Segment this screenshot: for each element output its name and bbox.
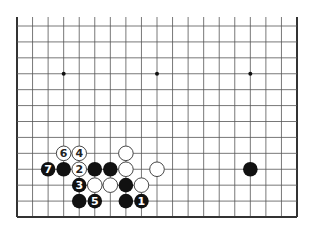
- black-stone: [119, 178, 134, 193]
- white-stone: [103, 178, 118, 193]
- black-stone: [243, 162, 258, 177]
- move-number-label: 2: [75, 163, 83, 176]
- white-stone: 2: [72, 162, 87, 177]
- stones: 6472351: [41, 146, 258, 208]
- black-stone: [72, 194, 87, 209]
- stone-disc: [87, 162, 102, 177]
- white-stone: [119, 146, 134, 161]
- move-number-label: 7: [44, 163, 52, 176]
- black-stone: 5: [87, 194, 102, 209]
- white-stone: [150, 162, 165, 177]
- stone-disc: [103, 178, 118, 193]
- white-stone: [134, 178, 149, 193]
- stone-disc: [56, 162, 71, 177]
- stone-disc: [87, 178, 102, 193]
- stone-disc: [72, 194, 87, 209]
- white-stone: [87, 178, 102, 193]
- move-number-label: 1: [138, 195, 146, 208]
- black-stone: [119, 194, 134, 209]
- go-board: 6472351: [0, 0, 311, 228]
- white-stone: 6: [56, 146, 71, 161]
- black-stone: 1: [134, 194, 149, 209]
- stone-disc: [134, 178, 149, 193]
- black-stone: [103, 162, 118, 177]
- board-grid: [17, 17, 297, 217]
- black-stone: [56, 162, 71, 177]
- move-number-label: 6: [60, 147, 68, 160]
- black-stone: 7: [41, 162, 56, 177]
- stone-disc: [243, 162, 258, 177]
- move-number-label: 4: [75, 147, 83, 160]
- stone-disc: [103, 162, 118, 177]
- stone-disc: [150, 162, 165, 177]
- white-stone: [119, 162, 134, 177]
- black-stone: [87, 162, 102, 177]
- star-point: [155, 72, 159, 76]
- move-number-label: 3: [75, 179, 83, 192]
- black-stone: 3: [72, 178, 87, 193]
- stone-disc: [119, 146, 134, 161]
- white-stone: 4: [72, 146, 87, 161]
- move-number-label: 5: [91, 195, 99, 208]
- stone-disc: [119, 178, 134, 193]
- star-point: [62, 72, 66, 76]
- star-point: [248, 72, 252, 76]
- stone-disc: [119, 162, 134, 177]
- stone-disc: [119, 194, 134, 209]
